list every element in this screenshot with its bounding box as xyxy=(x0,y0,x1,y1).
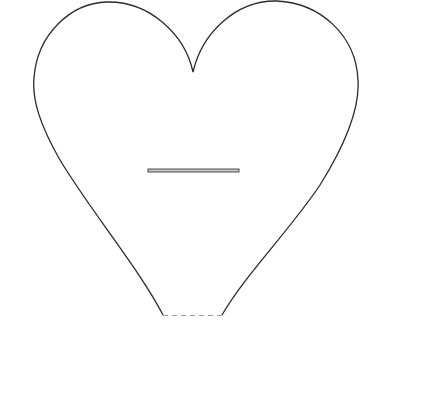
heart-diagram xyxy=(0,0,423,406)
slot xyxy=(148,169,239,172)
background xyxy=(0,0,423,406)
